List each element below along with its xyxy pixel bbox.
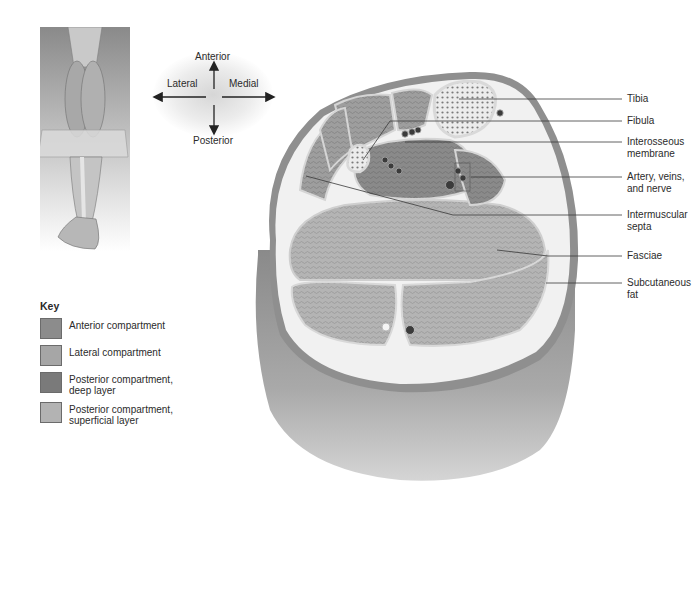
key-item-anterior: Anterior compartment xyxy=(40,318,230,339)
anterior-swatch-icon xyxy=(40,318,62,339)
label-fibula: Fibula xyxy=(627,115,654,127)
key-label: Posterior compartment, deep layer xyxy=(69,372,179,396)
key-title: Key xyxy=(40,300,230,312)
small-saphenous-vein xyxy=(406,326,415,335)
fibula-bone xyxy=(348,145,370,172)
great-saphenous-vein xyxy=(497,110,503,116)
key-label: Lateral compartment xyxy=(69,345,161,358)
label-intermuscular-septa: Intermuscular septa xyxy=(627,209,693,232)
posterior-superficial-swatch-icon xyxy=(40,402,62,423)
label-subcutaneous-fat: Subcutaneous fat xyxy=(627,277,697,300)
label-tibia: Tibia xyxy=(627,93,648,105)
posterior-deep-swatch-icon xyxy=(40,372,62,393)
label-interosseous-membrane: Interosseous membrane xyxy=(627,136,697,159)
key-legend: Key Anterior compartment Lateral compart… xyxy=(40,300,230,432)
key-item-posterior-superficial: Posterior compartment, superficial layer xyxy=(40,402,230,426)
label-artery-veins-nerve: Artery, veins, and nerve xyxy=(627,171,697,194)
lateral-swatch-icon xyxy=(40,345,62,366)
key-label: Posterior compartment, superficial layer xyxy=(69,402,179,426)
key-item-lateral: Lateral compartment xyxy=(40,345,230,366)
posterior-superficial-compartment xyxy=(290,200,545,280)
label-fasciae: Fasciae xyxy=(627,250,662,262)
key-label: Anterior compartment xyxy=(69,318,165,331)
key-item-posterior-deep: Posterior compartment, deep layer xyxy=(40,372,230,396)
